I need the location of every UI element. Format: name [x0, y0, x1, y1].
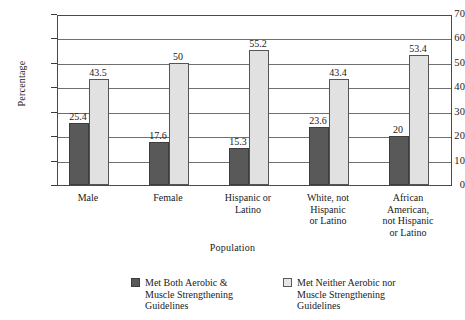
bar-light-1 [169, 63, 189, 185]
bar-light-2 [249, 50, 269, 185]
legend-item-met-both: Met Both Aerobic &Muscle StrengtheningGu… [131, 277, 263, 312]
y-axis-title: Percentage [16, 34, 27, 134]
bar-dark-2 [229, 148, 249, 185]
legend-label-met-both: Met Both Aerobic &Muscle StrengtheningGu… [145, 277, 233, 312]
x-category-label-4: AfricanAmerican,not Hispanicor Latino [360, 192, 456, 238]
bar-value-label-light-2: 55.2 [238, 38, 278, 49]
bar-light-0 [89, 79, 109, 185]
bar-value-label-dark-0: 25.4 [58, 111, 98, 122]
bar-chart: Percentage 706050403020100 25.443.517.65… [0, 0, 465, 320]
bar-value-label-dark-2: 15.3 [218, 136, 258, 147]
legend: Met Both Aerobic &Muscle StrengtheningGu… [131, 277, 441, 312]
legend-swatch-light-icon [283, 278, 292, 287]
legend-item-met-neither: Met Neither Aerobic norMuscle Strengthen… [283, 277, 415, 312]
bar-value-label-dark-3: 23.6 [298, 115, 338, 126]
bar-dark-4 [389, 136, 409, 185]
bar-value-label-light-1: 50 [158, 51, 198, 62]
bar-value-label-dark-4: 20 [378, 124, 418, 135]
bar-dark-1 [149, 142, 169, 185]
bar-value-label-light-0: 43.5 [78, 67, 118, 78]
bar-value-label-light-3: 43.4 [318, 67, 358, 78]
bar-value-label-dark-1: 17.6 [138, 130, 178, 141]
bar-value-label-light-4: 53.4 [398, 43, 438, 54]
bar-light-4 [409, 55, 429, 185]
bar-dark-3 [309, 127, 329, 185]
bar-dark-0 [69, 123, 89, 185]
bar-light-3 [329, 79, 349, 185]
legend-label-met-neither: Met Neither Aerobic norMuscle Strengthen… [297, 277, 396, 312]
x-axis-title: Population [0, 242, 465, 253]
legend-swatch-dark-icon [131, 278, 140, 287]
